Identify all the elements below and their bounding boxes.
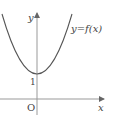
y-axis-label: y bbox=[27, 12, 34, 23]
y-intercept-label: 1 bbox=[30, 77, 36, 87]
origin-label: O bbox=[27, 102, 35, 113]
function-graph: y x O 1 y=f(x) bbox=[0, 0, 118, 126]
curve-label: y=f(x) bbox=[70, 23, 102, 34]
x-axis-label: x bbox=[98, 102, 104, 113]
